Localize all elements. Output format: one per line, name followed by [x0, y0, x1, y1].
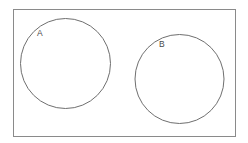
set-a-circle — [21, 19, 111, 109]
venn-diagram-figure: A B — [0, 0, 248, 143]
set-b-label: B — [159, 39, 165, 49]
set-a-label: A — [37, 28, 43, 38]
venn-diagram-canvas: A B — [0, 0, 248, 143]
